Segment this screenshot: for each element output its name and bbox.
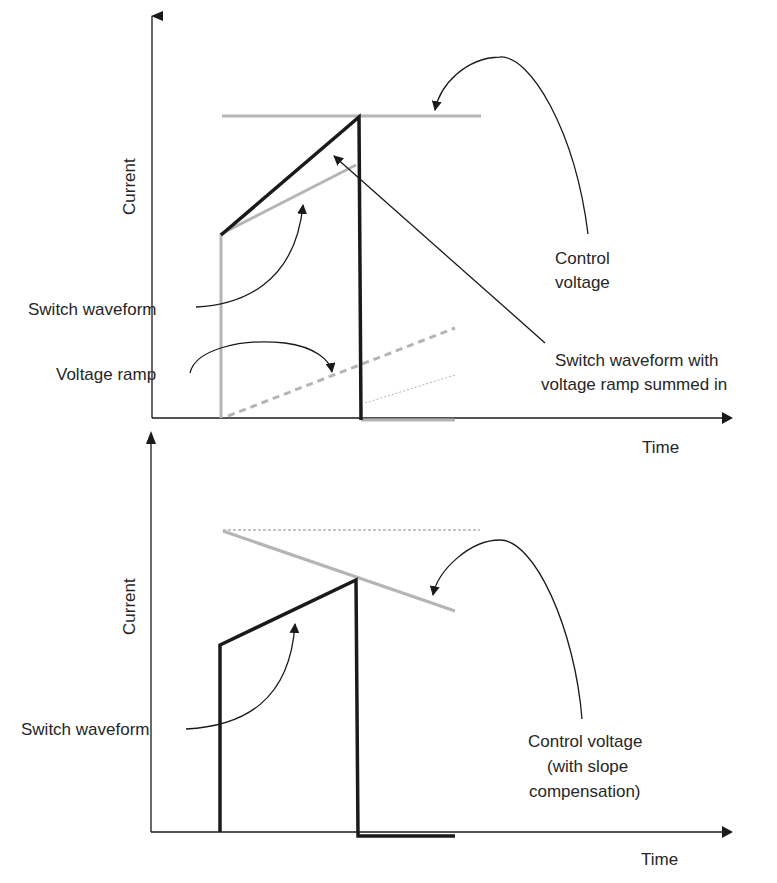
bottom-control-label-2: (with slope xyxy=(547,757,628,776)
top-y-axis-label: Current xyxy=(120,158,139,215)
bottom-y-axis-arrowhead xyxy=(146,431,156,444)
top-x-axis-arrowhead xyxy=(722,412,733,424)
top-control-voltage-pointer xyxy=(435,57,588,234)
bottom-switch-waveform-label: Switch waveform xyxy=(21,720,149,739)
bottom-control-label-1: Control voltage xyxy=(528,732,642,751)
bottom-switch-waveform-pointer xyxy=(186,624,295,729)
top-x-axis-label: Time xyxy=(642,438,679,457)
top-control-voltage-label-2: voltage xyxy=(555,273,610,292)
top-voltage-ramp-label: Voltage ramp xyxy=(56,365,156,384)
top-switch-waveform-label: Switch waveform xyxy=(28,300,156,319)
top-summed-label-2: voltage ramp summed in xyxy=(541,375,727,394)
bottom-control-voltage-line xyxy=(223,531,455,611)
bottom-y-axis-label: Current xyxy=(120,578,139,635)
top-control-voltage-label-1: Control xyxy=(555,249,610,268)
bottom-x-axis-label: Time xyxy=(641,850,678,869)
top-voltage-ramp-pointer xyxy=(190,342,332,373)
bottom-control-label-3: compensation) xyxy=(529,782,641,801)
bottom-control-voltage-pointer xyxy=(433,540,582,719)
bottom-panel: Current Time Switch waveform Control vol… xyxy=(21,431,733,869)
top-summed-label-1: Switch waveform with xyxy=(555,351,718,370)
slope-compensation-diagram: Current Time Switch waveform Voltage ram… xyxy=(0,0,777,883)
bottom-x-axis-arrowhead xyxy=(722,826,733,838)
top-switch-waveform-gray xyxy=(221,165,356,418)
top-panel: Current Time Switch waveform Voltage ram… xyxy=(28,16,733,457)
top-ramp-dotted-continuation xyxy=(365,375,455,403)
top-summed-pointer xyxy=(334,156,545,343)
top-summed-waveform xyxy=(221,117,361,420)
